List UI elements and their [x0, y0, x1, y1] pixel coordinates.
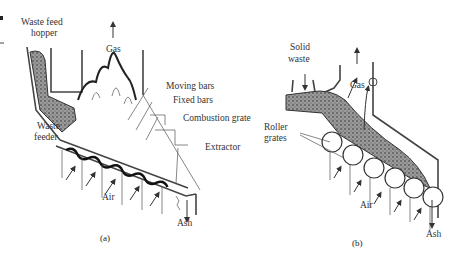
label-waste-feed: Waste feed	[21, 17, 63, 27]
label-feeder: feeder	[34, 132, 59, 142]
flame-inner-icon	[92, 88, 132, 104]
hopper-right-wall	[51, 48, 82, 92]
ash-particles	[176, 196, 180, 210]
label-gas-a: Gas	[106, 44, 121, 54]
label-hopper: hopper	[31, 28, 58, 38]
label-roller: Roller	[264, 122, 289, 132]
label-ash-b: Ash	[426, 229, 442, 239]
grate-top-line	[60, 140, 188, 188]
caption-a: (a)	[100, 233, 110, 243]
flame-icon	[78, 53, 136, 100]
margin-mark	[0, 16, 3, 20]
label-solid: Solid	[290, 42, 310, 52]
label-waste-b: waste	[288, 54, 310, 64]
label-combustion-grate: Combustion grate	[183, 113, 251, 123]
label-air-a: Air	[102, 192, 116, 202]
furnace-left-wall	[325, 65, 340, 92]
label-air-b: Air	[360, 200, 374, 210]
label-extractor: Extractor	[205, 142, 241, 152]
caption-b: (b)	[352, 238, 363, 248]
label-fixed-bars: Fixed bars	[173, 95, 213, 105]
label-ash-a: Ash	[177, 218, 193, 228]
furnace-structure	[143, 95, 200, 190]
leader-lines	[128, 88, 178, 184]
label-moving-bars: Moving bars	[166, 81, 215, 91]
label-waste: Waste	[37, 121, 60, 131]
feed-chute	[292, 80, 315, 92]
moving-bars-icon	[65, 147, 169, 190]
incinerator-grates-diagram: Waste feed hopper Gas Moving bars Fixed …	[0, 0, 461, 257]
label-gas-b: Gas	[350, 80, 365, 90]
label-grates: grates	[264, 133, 287, 143]
